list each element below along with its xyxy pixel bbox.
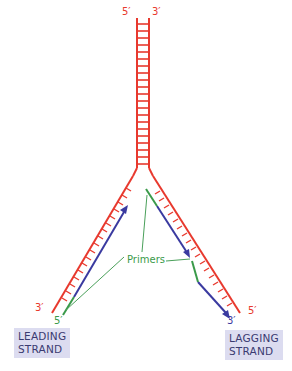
- lagging-okazaki-fragment-1: [157, 206, 190, 258]
- leading-parent-strand: [52, 176, 133, 313]
- parental-helix: [133, 18, 153, 176]
- lagging-parent-strand: [153, 176, 240, 313]
- lagging-5prime-label: 5′: [248, 306, 257, 316]
- leading-strand-line1: LEADING: [18, 330, 66, 343]
- lagging-strand-line2: STRAND: [229, 345, 279, 358]
- lagging-primer-2: [192, 261, 198, 282]
- lagging-okazaki-fragment-2: [198, 282, 230, 319]
- lagging-strand-line1: LAGGING: [229, 332, 279, 345]
- leading-strand-label: LEADING STRAND: [14, 328, 70, 358]
- lagging-primer-1: [146, 189, 157, 206]
- top-3prime-label: 3′: [152, 7, 161, 17]
- leading-strand-line2: STRAND: [18, 343, 66, 356]
- lagging-strand-label: LAGGING STRAND: [225, 330, 283, 360]
- top-5prime-label: 5′: [122, 7, 131, 17]
- leading-3prime-label: 3′: [35, 303, 44, 313]
- leading-new-strand: [74, 205, 128, 297]
- primers-label: Primers: [127, 255, 165, 265]
- leading-5prime-label: 5′: [54, 316, 63, 326]
- lagging-3prime-label: 3′: [227, 316, 236, 326]
